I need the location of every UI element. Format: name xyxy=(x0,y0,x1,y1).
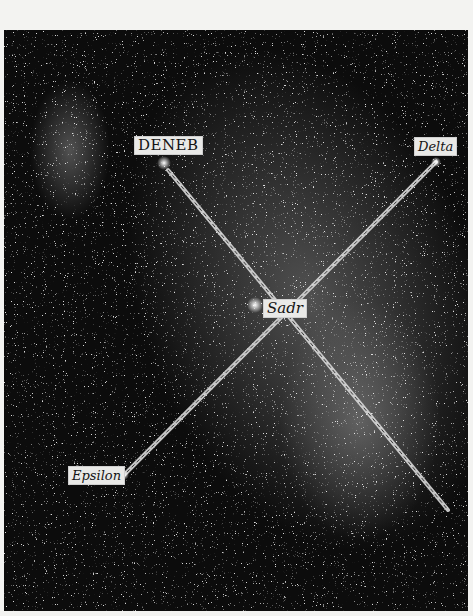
star-delta xyxy=(431,157,441,167)
label-epsilon: Epsilon xyxy=(68,466,125,485)
star-field-photo xyxy=(4,30,468,611)
label-sadr: Sadr xyxy=(263,299,307,318)
label-deneb: DENEB xyxy=(134,136,203,155)
star-noise xyxy=(4,30,468,611)
star-sadr xyxy=(247,297,263,313)
label-delta: Delta xyxy=(414,137,457,156)
star-deneb xyxy=(157,156,171,170)
star-field-svg xyxy=(4,30,468,611)
